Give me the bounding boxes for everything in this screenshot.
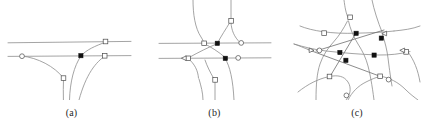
panel-c-node-filled-square-2 <box>379 36 383 40</box>
panel-c-node-filled-square-3 <box>338 50 342 54</box>
panel-c-strand-lower-mid <box>348 76 380 100</box>
panel-c-strand-far-left <box>294 44 308 49</box>
panel-c-caption: (c) <box>286 107 428 119</box>
panel-b-strand-center-right <box>205 44 226 58</box>
panel-b-diagram <box>143 0 286 100</box>
panel-a-diagram <box>0 0 143 100</box>
panel-b-node-open-square-1 <box>202 41 207 46</box>
panel-b-branch-lower-left-tail <box>199 79 203 100</box>
panel-c-node-triangle-3 <box>400 48 405 53</box>
panel-c-strand-far-right <box>408 52 420 82</box>
panel-c-strand-vert-left <box>344 0 348 18</box>
panel-c-node-filled-square-5 <box>372 53 376 57</box>
panel-c-strand-lower-right <box>380 76 418 100</box>
panel-a-lower-line <box>8 56 131 57</box>
panel-a-node-open-square-1 <box>103 39 108 44</box>
panel-a-upper-line <box>8 41 131 42</box>
panel-c-strand-upper-right-tail <box>394 26 420 31</box>
panel-b-node-open-square-4 <box>213 78 218 83</box>
panel-a-right-arc <box>70 42 107 100</box>
panel-a-caption: (a) <box>0 107 143 119</box>
panel-c-strand-lower <box>298 76 350 100</box>
panel-a-node-open-square-2 <box>102 54 107 59</box>
figure-panel-c: (c) <box>286 0 428 122</box>
panel-b-lower-line <box>159 58 271 59</box>
panel-c-node-open-square-5 <box>378 74 383 79</box>
figure-panel-a: (a) <box>0 0 143 122</box>
panel-b-node-open-circle-2 <box>236 56 241 61</box>
panel-b-branch-upper-left <box>193 0 204 43</box>
panel-a-right-arc-2 <box>79 56 105 100</box>
panel-a-node-filled-square-1 <box>79 54 83 58</box>
panel-c-chord-diagonal <box>308 50 382 77</box>
panel-b-node-open-circle-1 <box>239 41 244 46</box>
panel-c-node-open-circle-2 <box>386 77 391 82</box>
panel-c-node-filled-square-1 <box>354 31 358 35</box>
panel-a-node-open-circle-1 <box>20 54 25 59</box>
panel-b-node-triangle-1 <box>181 56 186 61</box>
panel-b-cusp-upper <box>218 23 230 43</box>
panel-b-node-filled-square-1 <box>215 41 219 45</box>
panel-b-branch-lower-left <box>188 58 199 78</box>
panel-c-node-open-circle-3 <box>344 93 349 98</box>
panel-b-branch-upper-right-lower <box>231 23 240 42</box>
panel-c-node-filled-square-4 <box>344 58 348 62</box>
panel-b-caption: (b) <box>143 107 286 119</box>
panel-c-chord-diagonal-3 <box>330 33 356 77</box>
panel-c-node-open-circle-1 <box>317 48 322 53</box>
panel-c-node-open-square-2 <box>348 15 353 20</box>
panel-b-branch-lower-right <box>225 58 234 100</box>
panel-c-strand-vert-right <box>372 0 382 32</box>
panel-c-diagram <box>286 0 428 100</box>
panel-a-node-open-square-3 <box>61 76 66 81</box>
panel-b-node-filled-square-2 <box>223 56 227 60</box>
panel-c-node-open-square-1 <box>322 31 327 36</box>
figure-panel-b: (b) <box>143 0 286 122</box>
figure-sheet: (a) <box>0 0 428 122</box>
panel-b-cusp-lower <box>205 60 214 78</box>
panel-c-node-open-square-4 <box>327 74 332 79</box>
panel-a-left-arc <box>22 56 64 78</box>
panel-b-node-open-square-2 <box>229 19 234 24</box>
